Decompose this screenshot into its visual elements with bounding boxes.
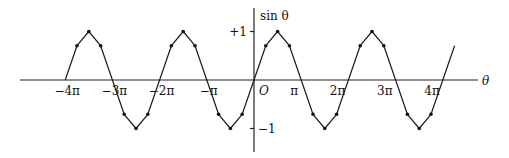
curve-point <box>288 44 292 48</box>
x-tick-label: −2π <box>149 84 175 98</box>
curve-point <box>217 112 221 116</box>
x-tick-label: 3π <box>377 84 393 98</box>
curve-point <box>229 127 233 131</box>
curve-point <box>276 30 280 34</box>
y-tick-label: −1 <box>258 122 276 136</box>
sine-chart: θ sin θ O −4π−3π−2π−ππ2π3π4π +1−1 <box>0 0 509 158</box>
origin-label: O <box>259 84 269 98</box>
curve-point <box>370 30 374 34</box>
curve-point <box>323 127 327 131</box>
y-axis-label: sin θ <box>260 9 289 23</box>
curve-point <box>181 30 185 34</box>
curve-point <box>75 44 79 48</box>
curve-point <box>134 127 138 131</box>
x-tick-label: π <box>290 84 298 98</box>
curve-point <box>193 44 197 48</box>
x-tick-label: −4π <box>54 84 80 98</box>
curve-point <box>311 112 315 116</box>
curve-point <box>358 44 362 48</box>
curve-point <box>429 112 433 116</box>
curve-point <box>87 30 91 34</box>
curve-point <box>417 127 421 131</box>
x-axis-label: θ <box>482 74 490 88</box>
curve-point <box>406 112 410 116</box>
curve-point <box>382 44 386 48</box>
x-tick-labels: −4π−3π−2π−ππ2π3π4π <box>54 84 439 98</box>
curve-point <box>264 44 268 48</box>
curve-point <box>122 112 126 116</box>
curve-point <box>335 112 339 116</box>
curve-point <box>170 44 174 48</box>
curve-point <box>240 112 244 116</box>
curve-point <box>146 112 150 116</box>
y-tick-label: +1 <box>229 25 247 39</box>
curve-point <box>99 44 103 48</box>
